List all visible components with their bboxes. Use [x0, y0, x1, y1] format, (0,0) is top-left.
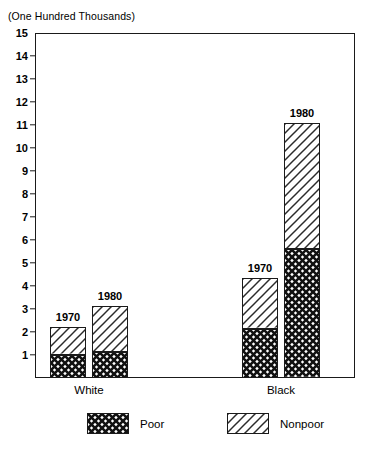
x-group-label-white: White	[74, 384, 103, 396]
bar-segment-poor	[284, 249, 320, 378]
legend-label-nonpoor: Nonpoor	[280, 418, 324, 430]
y-tick-mark	[30, 308, 35, 309]
bar-segment-nonpoor	[92, 306, 128, 352]
y-tick-mark	[30, 55, 35, 56]
y-tick-mark	[30, 285, 35, 286]
y-tick-mark	[30, 331, 35, 332]
y-tick-mark	[30, 216, 35, 217]
y-tick-label: 11	[2, 119, 28, 131]
bar-year-label: 1980	[98, 290, 122, 302]
bar-segment-nonpoor	[50, 327, 86, 355]
y-tick-label: 12	[2, 96, 28, 108]
y-tick-mark	[30, 193, 35, 194]
y-tick-mark	[30, 124, 35, 125]
bar-segment-nonpoor	[284, 123, 320, 250]
bar-segment-poor	[50, 355, 86, 378]
bar-segment-poor	[92, 352, 128, 378]
bar-segment-poor	[242, 329, 278, 378]
y-tick-mark	[30, 147, 35, 148]
y-tick-label: 13	[2, 73, 28, 85]
y-tick-mark	[30, 354, 35, 355]
bar-year-label: 1980	[290, 107, 314, 119]
y-tick-label: 10	[2, 142, 28, 154]
y-tick-label: 1	[2, 349, 28, 361]
y-tick-label: 9	[2, 165, 28, 177]
y-tick-mark	[30, 262, 35, 263]
y-tick-label: 15	[2, 27, 28, 39]
y-tick-label: 8	[2, 188, 28, 200]
y-tick-label: 14	[2, 50, 28, 62]
legend-swatch-nonpoor	[227, 413, 269, 434]
y-tick-label: 3	[2, 303, 28, 315]
y-axis-unit-caption: (One Hundred Thousands)	[8, 10, 135, 22]
y-tick-label: 2	[2, 326, 28, 338]
bar-year-label: 1970	[56, 311, 80, 323]
x-group-label-black: Black	[267, 384, 295, 396]
bar-year-label: 1970	[248, 262, 272, 274]
legend-swatch-poor	[87, 413, 129, 434]
y-tick-mark	[30, 170, 35, 171]
y-tick-label: 4	[2, 280, 28, 292]
legend-label-poor: Poor	[140, 418, 164, 430]
y-tick-label: 7	[2, 211, 28, 223]
y-tick-label: 5	[2, 257, 28, 269]
y-tick-mark	[30, 239, 35, 240]
y-tick-mark	[30, 101, 35, 102]
bar-segment-nonpoor	[242, 278, 278, 329]
y-tick-label: 6	[2, 234, 28, 246]
y-tick-mark	[30, 78, 35, 79]
bar-chart: (One Hundred Thousands) 1234567891011121…	[0, 0, 375, 453]
